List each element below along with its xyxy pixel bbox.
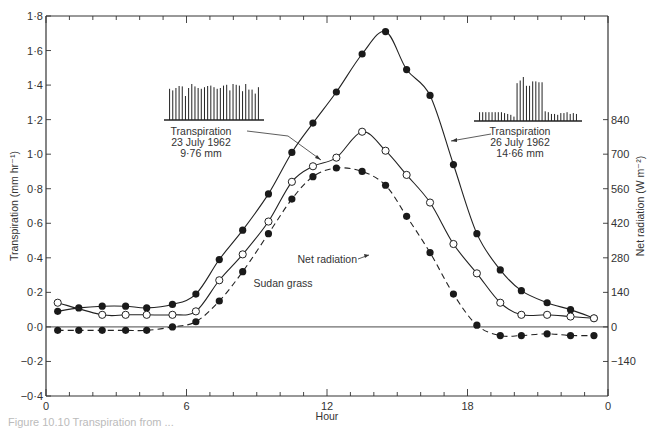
open-circle-marker — [99, 311, 106, 318]
axes: 0612180−0·4−0·20·00·20·40·60·81·01·21·41… — [21, 10, 636, 412]
sudan-grass-label: Sudan grass — [254, 277, 313, 289]
x-tick-label: 0 — [605, 400, 611, 412]
y-tick-label: 0·0 — [27, 321, 43, 333]
filled-circle-marker — [192, 290, 199, 297]
filled-circle-marker — [450, 290, 457, 297]
open-circle-marker — [426, 199, 433, 206]
filled-circle-marker — [403, 66, 410, 73]
open-circle-marker — [265, 218, 272, 225]
y-tick-label: 1·8 — [27, 10, 43, 22]
filled-circle-marker — [309, 119, 316, 126]
filled-circle-marker — [382, 28, 389, 35]
filled-circle-marker — [54, 308, 61, 315]
annot-23-july-line3: 9·76 mm — [180, 147, 222, 159]
y2-axis-title: Net radiation (W m⁻²) — [634, 156, 646, 257]
series-26-july — [54, 28, 597, 322]
annot-23-july-leader — [247, 131, 321, 160]
filled-circle-marker — [333, 88, 340, 95]
filled-circle-marker — [216, 297, 223, 304]
filled-circle-marker — [239, 268, 246, 275]
filled-circle-marker — [309, 173, 316, 180]
y-tick-label: 1·6 — [27, 45, 43, 57]
y-tick-label: 0·4 — [27, 252, 43, 264]
y-tick-label: 0·6 — [27, 217, 43, 229]
y2-tick-label: 280 — [611, 252, 629, 264]
filled-circle-marker — [265, 230, 272, 237]
filled-circle-marker — [473, 230, 480, 237]
annot-26-july-line3: 14·66 mm — [496, 147, 544, 159]
filled-circle-marker — [518, 332, 525, 339]
filled-circle-marker — [169, 323, 176, 330]
y-axis-title: Transpiration (mm hr⁻¹) — [8, 151, 20, 261]
inset-trace-23-july — [164, 84, 264, 120]
filled-circle-marker — [265, 190, 272, 197]
filled-circle-marker — [288, 149, 295, 156]
filled-circle-marker — [403, 213, 410, 220]
inset-traces — [164, 77, 582, 121]
filled-circle-marker — [143, 327, 150, 334]
filled-circle-marker — [426, 92, 433, 99]
y-tick-label: 1·2 — [27, 114, 43, 126]
series-line — [58, 31, 594, 318]
open-circle-marker — [544, 311, 551, 318]
filled-circle-marker — [497, 266, 504, 273]
filled-circle-marker — [382, 182, 389, 189]
open-circle-marker — [497, 299, 504, 306]
y-tick-label: 0·2 — [27, 286, 43, 298]
filled-circle-marker — [333, 164, 340, 171]
filled-circle-marker — [544, 330, 551, 337]
y2-tick-label: 840 — [611, 114, 629, 126]
x-tick-label: 18 — [461, 400, 473, 412]
open-circle-marker — [239, 251, 246, 258]
filled-circle-marker — [473, 322, 480, 329]
net-radiation-arrowhead — [364, 254, 369, 258]
y2-tick-label: 700 — [611, 148, 629, 160]
y2-tick-label: 420 — [611, 217, 629, 229]
open-circle-marker — [192, 308, 199, 315]
y2-tick-label: 0 — [611, 321, 617, 333]
filled-circle-marker — [99, 303, 106, 310]
filled-circle-marker — [122, 303, 129, 310]
open-circle-marker — [382, 147, 389, 154]
filled-circle-marker — [288, 195, 295, 202]
y2-tick-label: −140 — [611, 355, 636, 367]
filled-circle-marker — [518, 287, 525, 294]
inset-trace-26-july — [474, 77, 582, 121]
x-axis-title: Hour — [316, 410, 339, 422]
filled-circle-marker — [450, 161, 457, 168]
chart: 0612180−0·4−0·20·00·20·40·60·81·01·21·41… — [0, 0, 657, 431]
y-tick-label: 0·8 — [27, 183, 43, 195]
annot-23-july-arrowhead — [315, 155, 321, 160]
open-circle-marker — [403, 171, 410, 178]
y-tick-label: 1·0 — [27, 148, 43, 160]
filled-circle-marker — [567, 306, 574, 313]
open-circle-marker — [309, 163, 316, 170]
filled-circle-marker — [216, 256, 223, 263]
open-circle-marker — [333, 154, 340, 161]
open-circle-marker — [567, 313, 574, 320]
net-radiation-label: Net radiation — [297, 253, 357, 265]
filled-circle-marker — [122, 327, 129, 334]
series-layer — [54, 28, 597, 339]
y-tick-label: −0·2 — [21, 355, 43, 367]
open-circle-marker — [54, 299, 61, 306]
y-tick-label: 1·4 — [27, 79, 43, 91]
open-circle-marker — [288, 178, 295, 185]
open-circle-marker — [122, 311, 129, 318]
x-tick-label: 6 — [183, 400, 189, 412]
y2-tick-label: 140 — [611, 286, 629, 298]
filled-circle-marker — [143, 304, 150, 311]
series-line — [58, 132, 594, 319]
open-circle-marker — [518, 311, 525, 318]
filled-circle-marker — [497, 332, 504, 339]
y2-tick-label: 560 — [611, 183, 629, 195]
annot-26-july-arrowhead — [451, 138, 457, 142]
filled-circle-marker — [99, 327, 106, 334]
filled-circle-marker — [426, 249, 433, 256]
open-circle-marker — [169, 311, 176, 318]
filled-circle-marker — [75, 327, 82, 334]
open-circle-marker — [216, 277, 223, 284]
filled-circle-marker — [544, 299, 551, 306]
open-circle-marker — [359, 128, 366, 135]
filled-circle-marker — [590, 332, 597, 339]
